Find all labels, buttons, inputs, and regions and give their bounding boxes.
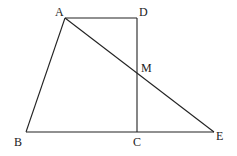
segment-AE — [65, 18, 214, 132]
label-A: A — [55, 5, 64, 19]
diagram-canvas: A D M B C E — [0, 0, 237, 156]
label-E: E — [216, 129, 223, 143]
label-B: B — [14, 135, 22, 149]
label-D: D — [139, 5, 148, 19]
segment-AB — [26, 18, 65, 132]
geometry-diagram: A D M B C E — [0, 0, 237, 156]
label-M: M — [141, 61, 152, 75]
label-C: C — [133, 135, 141, 149]
